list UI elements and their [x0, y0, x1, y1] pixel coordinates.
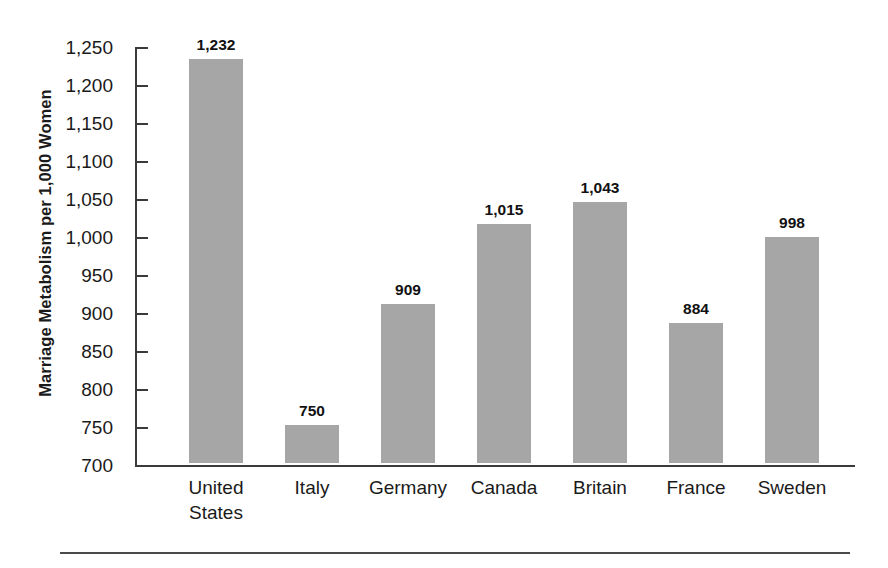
bar-value-label: 998: [779, 214, 805, 232]
x-axis-line: [135, 465, 855, 467]
y-tick-label: 1,250: [65, 38, 113, 57]
x-category-label: Sweden: [758, 475, 827, 500]
y-tick-mark: [137, 161, 148, 163]
y-tick-mark: [137, 237, 148, 239]
y-tick-label: 1,000: [65, 228, 113, 247]
y-tick-label: 950: [81, 266, 113, 285]
y-tick-mark: [137, 427, 148, 429]
bar: 884: [669, 323, 723, 463]
bar: 1,043: [573, 202, 627, 463]
bar-value-label: 884: [683, 300, 709, 318]
bar-value-label: 1,015: [485, 201, 524, 219]
x-category-label: Italy: [295, 475, 330, 500]
y-tick-label: 1,050: [65, 190, 113, 209]
y-tick-label: 850: [81, 342, 113, 361]
y-tick-label: 1,100: [65, 152, 113, 171]
y-tick-label: 800: [81, 380, 113, 399]
bar: 1,015: [477, 224, 531, 463]
bar: 750: [285, 425, 339, 463]
x-category-label: Canada: [471, 475, 538, 500]
y-tick-mark: [137, 465, 148, 467]
bar-value-label: 750: [299, 402, 325, 420]
bar: 1,232: [189, 59, 243, 463]
bar-value-label: 1,232: [197, 36, 236, 54]
y-tick-mark: [137, 85, 148, 87]
y-tick-mark: [137, 275, 148, 277]
y-tick-label: 900: [81, 304, 113, 323]
plot-area: 7007508008509009501,0001,0501,1001,1501,…: [135, 47, 855, 465]
y-tick-mark: [137, 389, 148, 391]
y-tick-mark: [137, 47, 148, 49]
bar: 998: [765, 237, 819, 463]
y-axis-title: Marriage Metabolism per 1,000 Women: [22, 8, 68, 478]
x-category-label: Britain: [573, 475, 627, 500]
y-tick-mark: [137, 199, 148, 201]
y-tick-label: 1,150: [65, 114, 113, 133]
y-tick-label: 700: [81, 456, 113, 475]
bar-value-label: 909: [395, 281, 421, 299]
y-tick-mark: [137, 313, 148, 315]
y-axis-line: [135, 47, 137, 466]
y-tick-mark: [137, 123, 148, 125]
bar-chart-figure: Marriage Metabolism per 1,000 Women 7007…: [0, 0, 888, 568]
bar: 909: [381, 304, 435, 463]
x-category-label: United States: [189, 475, 244, 525]
x-category-label: Germany: [369, 475, 447, 500]
bottom-divider-rule: [60, 552, 850, 554]
bar-value-label: 1,043: [581, 179, 620, 197]
y-tick-label: 1,200: [65, 76, 113, 95]
y-tick-mark: [137, 351, 148, 353]
y-tick-label: 750: [81, 418, 113, 437]
x-category-label: France: [666, 475, 725, 500]
